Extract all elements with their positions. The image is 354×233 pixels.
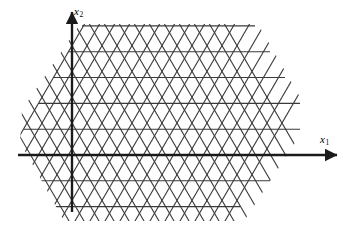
lattice-diagonal-up-line bbox=[0, 18, 58, 228]
lattice-diagonal-up-lines bbox=[0, 18, 343, 228]
x1-axis-label: x1 bbox=[320, 134, 329, 145]
x2-axis-label-subscript: 2 bbox=[79, 10, 83, 19]
x1-axis-label-subscript: 1 bbox=[325, 138, 329, 147]
lattice-diagonal-down-lines bbox=[0, 18, 343, 228]
lattice-line-group bbox=[0, 18, 343, 228]
lattice-diagonal-down-line bbox=[0, 18, 43, 228]
lattice-diagonal-down-line bbox=[0, 18, 58, 228]
lattice-diagonal-up-line bbox=[0, 18, 28, 228]
lattice-diagonal-down-line bbox=[0, 18, 73, 228]
x2-axis-label: x2 bbox=[74, 6, 83, 17]
lattice-diagonal-up-line bbox=[0, 18, 43, 228]
lattice-horizontal-lines bbox=[24, 26, 300, 207]
lattice-diagonal-up-line bbox=[0, 18, 13, 228]
lattice-figure: x2 x1 bbox=[0, 0, 354, 233]
lattice-diagonal-down-line bbox=[0, 18, 13, 228]
lattice-diagonal-up-line bbox=[0, 18, 73, 228]
lattice-plot-canvas bbox=[0, 0, 354, 233]
lattice-diagonal-down-line bbox=[0, 18, 28, 228]
